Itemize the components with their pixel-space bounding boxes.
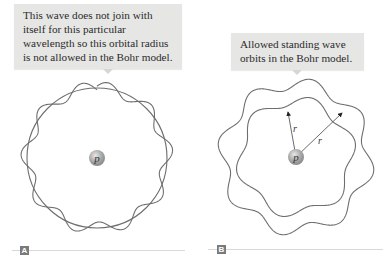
radius-label-inner: r bbox=[293, 123, 297, 134]
nucleus-b-label: p bbox=[292, 151, 299, 163]
radius-label-outer: r bbox=[318, 135, 322, 146]
panel-b-rule bbox=[208, 249, 383, 250]
panel-b-label: B bbox=[217, 245, 226, 254]
panel-a-rule bbox=[12, 250, 185, 251]
bohr-orbit-diagram: p r r p bbox=[0, 0, 391, 270]
panel-b-drawing: r r p bbox=[218, 79, 373, 234]
nucleus-a-label: p bbox=[93, 152, 100, 164]
panel-a-label: A bbox=[20, 246, 29, 255]
panel-a-drawing: p bbox=[21, 83, 172, 231]
